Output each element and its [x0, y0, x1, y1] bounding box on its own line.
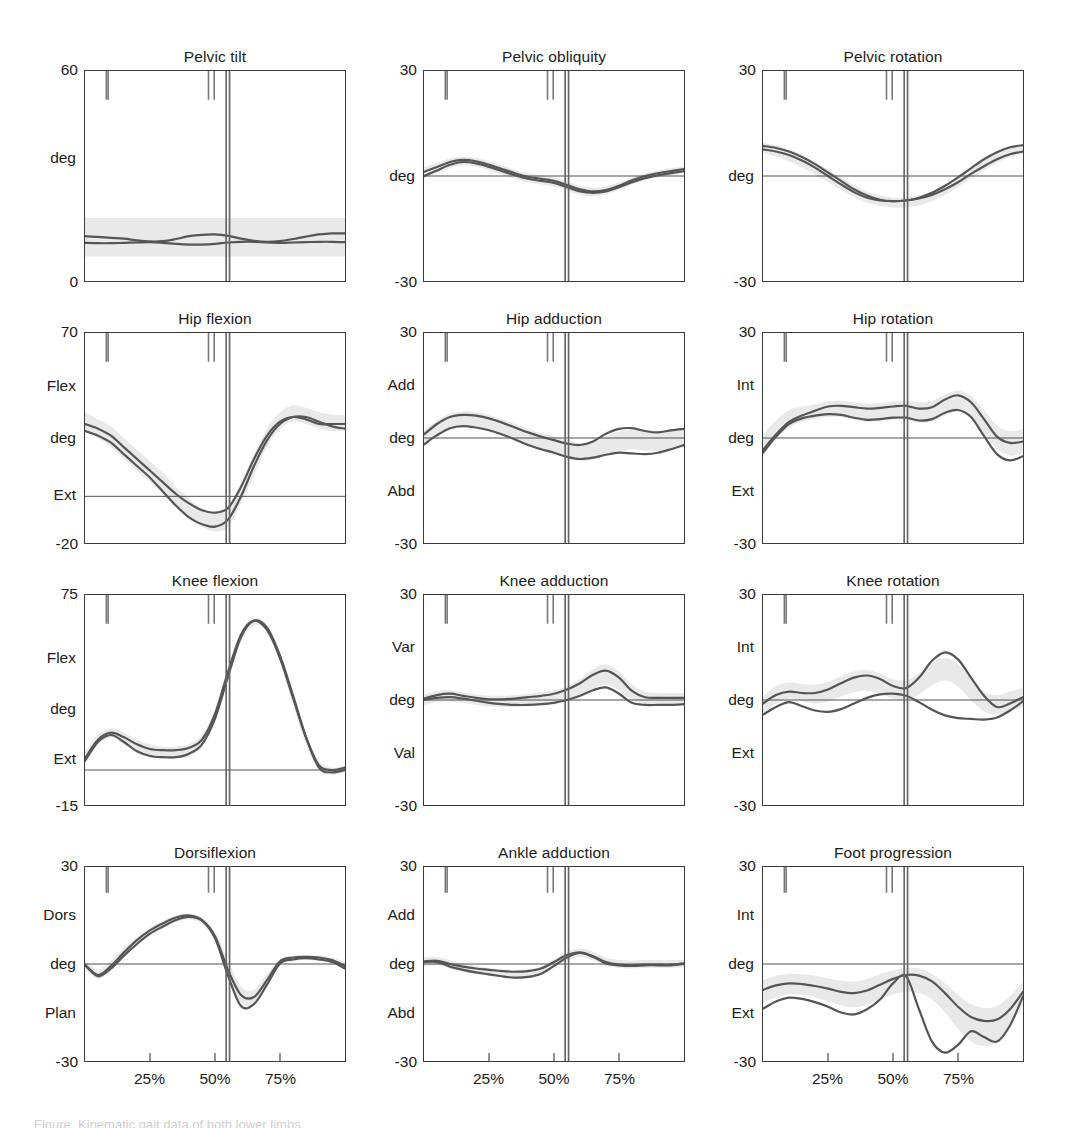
- panel-pelvic-rotation: Pelvic rotation30-30deg: [678, 26, 1040, 308]
- x-tick-label-ankle-adduction-0: 25%: [473, 1070, 504, 1088]
- panel-hip-rotation: Hip rotation30-30IntdegExt: [678, 288, 1040, 570]
- figure-caption: Figure. Kinematic gait data of both lowe…: [34, 1116, 1054, 1128]
- y-min-label-knee-flexion: -15: [0, 797, 78, 815]
- y-max-label-knee-rotation: 30: [678, 585, 756, 603]
- plot-area-hip-adduction: [423, 332, 685, 544]
- plot-area-dorsiflexion: [84, 866, 346, 1062]
- y-side-label-foot-progression-0: Int: [678, 906, 754, 924]
- panel-title-hip-rotation: Hip rotation: [762, 310, 1024, 328]
- normal-band-pelvic-rotation: [763, 143, 1023, 208]
- x-tick-label-foot-progression-1: 50%: [877, 1070, 908, 1088]
- normal-band-hip-rotation: [763, 390, 1023, 455]
- y-max-label-hip-adduction: 30: [339, 323, 417, 341]
- plot-area-knee-rotation: [762, 594, 1024, 806]
- y-min-label-dorsiflexion: -30: [0, 1053, 78, 1071]
- y-max-label-pelvic-tilt: 60: [0, 61, 78, 79]
- y-min-label-ankle-adduction: -30: [339, 1053, 417, 1071]
- panel-title-pelvic-tilt: Pelvic tilt: [84, 48, 346, 66]
- plot-area-ankle-adduction: [423, 866, 685, 1062]
- y-side-label-hip-flexion-0: Flex: [0, 377, 76, 395]
- panel-title-foot-progression: Foot progression: [762, 844, 1024, 862]
- normal-band-knee-adduction: [424, 664, 684, 707]
- plot-area-pelvic-obliquity: [423, 70, 685, 282]
- y-side-label-ankle-adduction-2: Abd: [339, 1004, 415, 1022]
- plot-area-pelvic-rotation: [762, 70, 1024, 282]
- x-tick-label-ankle-adduction-1: 50%: [538, 1070, 569, 1088]
- y-max-label-pelvic-obliquity: 30: [339, 61, 417, 79]
- y-side-label-dorsiflexion-0: Dors: [0, 906, 76, 924]
- y-side-label-hip-rotation-1: deg: [678, 429, 754, 447]
- y-side-label-foot-progression-2: Ext: [678, 1004, 754, 1022]
- panel-title-knee-rotation: Knee rotation: [762, 572, 1024, 590]
- panel-title-knee-adduction: Knee adduction: [423, 572, 685, 590]
- panel-title-hip-adduction: Hip adduction: [423, 310, 685, 328]
- series-hip-flexion-1: [85, 416, 345, 527]
- y-side-label-pelvic-obliquity-0: deg: [339, 167, 415, 185]
- y-side-label-knee-adduction-0: Var: [339, 638, 415, 656]
- panel-hip-flexion: Hip flexion70-20FlexdegExt: [0, 288, 362, 570]
- x-tick-label-dorsiflexion-0: 25%: [134, 1070, 165, 1088]
- gait-kinematics-figure: Pelvic tilt600degPelvic obliquity30-30de…: [0, 0, 1086, 1128]
- y-max-label-dorsiflexion: 30: [0, 857, 78, 875]
- series-pelvic-rotation-0: [763, 145, 1023, 201]
- panel-ankle-adduction: Ankle adduction30-30AdddegAbd25%50%75%: [339, 822, 701, 1088]
- y-max-label-hip-rotation: 30: [678, 323, 756, 341]
- normal-band-dorsiflexion: [85, 914, 345, 1007]
- y-side-label-dorsiflexion-2: Plan: [0, 1004, 76, 1022]
- y-max-label-pelvic-rotation: 30: [678, 61, 756, 79]
- y-side-label-ankle-adduction-1: deg: [339, 955, 415, 973]
- panel-pelvic-tilt: Pelvic tilt600deg: [0, 26, 362, 308]
- y-side-label-knee-flexion-2: Ext: [0, 750, 76, 768]
- y-max-label-knee-flexion: 75: [0, 585, 78, 603]
- y-side-label-hip-adduction-2: Abd: [339, 482, 415, 500]
- panel-grid: Pelvic tilt600degPelvic obliquity30-30de…: [0, 0, 1086, 1090]
- plot-area-hip-flexion: [84, 332, 346, 544]
- panel-title-ankle-adduction: Ankle adduction: [423, 844, 685, 862]
- y-side-label-knee-adduction-1: deg: [339, 691, 415, 709]
- panel-knee-adduction: Knee adduction30-30VardegVal: [339, 550, 701, 832]
- y-side-label-knee-flexion-0: Flex: [0, 649, 76, 667]
- y-side-label-hip-flexion-2: Ext: [0, 486, 76, 504]
- y-side-label-hip-adduction-0: Add: [339, 376, 415, 394]
- panel-title-pelvic-rotation: Pelvic rotation: [762, 48, 1024, 66]
- panel-title-hip-flexion: Hip flexion: [84, 310, 346, 328]
- y-side-label-hip-rotation-2: Ext: [678, 482, 754, 500]
- plot-area-knee-flexion: [84, 594, 346, 806]
- y-max-label-hip-flexion: 70: [0, 323, 78, 341]
- y-side-label-pelvic-tilt-0: deg: [0, 149, 76, 167]
- panel-knee-flexion: Knee flexion75-15FlexdegExt: [0, 550, 362, 832]
- y-min-label-foot-progression: -30: [678, 1053, 756, 1071]
- plot-area-hip-rotation: [762, 332, 1024, 544]
- panel-foot-progression: Foot progression30-30IntdegExt25%50%75%: [678, 822, 1040, 1088]
- y-max-label-knee-adduction: 30: [339, 585, 417, 603]
- x-tick-label-dorsiflexion-1: 50%: [199, 1070, 230, 1088]
- y-side-label-pelvic-rotation-0: deg: [678, 167, 754, 185]
- panel-title-pelvic-obliquity: Pelvic obliquity: [423, 48, 685, 66]
- series-dorsiflexion-1: [85, 917, 345, 1009]
- plot-area-foot-progression: [762, 866, 1024, 1062]
- x-tick-label-ankle-adduction-2: 75%: [604, 1070, 635, 1088]
- panel-dorsiflexion: Dorsiflexion30-30DorsdegPlan25%50%75%: [0, 822, 362, 1088]
- x-tick-label-dorsiflexion-2: 75%: [265, 1070, 296, 1088]
- y-side-label-knee-rotation-2: Ext: [678, 744, 754, 762]
- y-side-label-knee-rotation-1: deg: [678, 691, 754, 709]
- x-tick-label-foot-progression-2: 75%: [943, 1070, 974, 1088]
- normal-band-knee-flexion: [85, 618, 345, 775]
- y-min-label-knee-adduction: -30: [339, 797, 417, 815]
- y-side-label-knee-adduction-2: Val: [339, 744, 415, 762]
- y-side-label-ankle-adduction-0: Add: [339, 906, 415, 924]
- x-tick-label-foot-progression-0: 25%: [812, 1070, 843, 1088]
- plot-area-pelvic-tilt: [84, 70, 346, 282]
- y-side-label-hip-flexion-1: deg: [0, 429, 76, 447]
- panel-title-dorsiflexion: Dorsiflexion: [84, 844, 346, 862]
- y-side-label-hip-adduction-1: deg: [339, 429, 415, 447]
- y-side-label-foot-progression-1: deg: [678, 955, 754, 973]
- panel-knee-rotation: Knee rotation30-30IntdegExt: [678, 550, 1040, 832]
- y-min-label-knee-rotation: -30: [678, 797, 756, 815]
- y-side-label-dorsiflexion-1: deg: [0, 955, 76, 973]
- y-max-label-foot-progression: 30: [678, 857, 756, 875]
- series-hip-flexion-0: [85, 417, 345, 513]
- panel-title-knee-flexion: Knee flexion: [84, 572, 346, 590]
- y-side-label-knee-rotation-0: Int: [678, 638, 754, 656]
- panel-hip-adduction: Hip adduction30-30AdddegAbd: [339, 288, 701, 570]
